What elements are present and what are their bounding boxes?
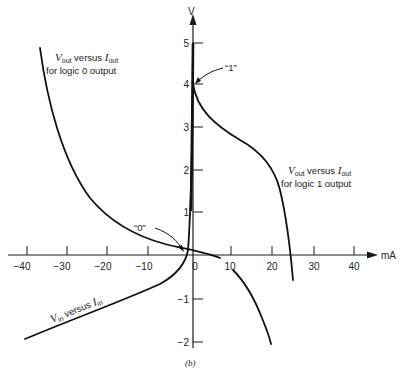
x-tick-label: −30 [54,261,71,272]
y-tick-label: 1 [183,207,189,218]
x-tick-label: 30 [308,261,320,272]
logic1-label-line2: for logic 1 output [281,178,352,189]
y-tick-label: 3 [183,122,189,133]
x-axis-arrow-icon [367,252,378,259]
x-tick-label: −40 [14,261,31,272]
x-tick-labels: −40 −30 −20 −10 0 10 20 30 40 [14,261,360,272]
curve-vout-logic1 [193,84,293,280]
logic0-label-line1: Vout versus Iout [55,51,118,64]
arrow-one-head-icon [195,77,201,84]
chart: −40 −30 −20 −10 0 10 20 30 40 mA 5 4 3 2… [0,0,401,378]
arrow-one [197,68,223,82]
x-tick-label: 20 [266,261,278,272]
x-tick-label: 40 [348,261,360,272]
curves [25,44,293,344]
x-tick-label: −10 [136,261,153,272]
figure-caption: (b) [185,358,196,368]
x-tick-label: 0 [192,261,198,272]
logic1-label-line1: Vout versus Iout [288,164,351,177]
marker-zero-label: “0” [134,222,146,233]
y-tick-label: 2 [183,165,189,176]
marker-one-label: “1” [225,62,237,73]
curve-vin-iin [25,44,193,339]
y-axis-unit: V [188,6,195,17]
y-tick-label: 4 [183,79,189,90]
vin-label: Vin versus Iin [48,293,104,326]
y-tick-labels: 5 4 3 2 1 −1 −2 [178,38,190,348]
curve-vin-iin-positive [233,270,271,344]
arrow-zero [155,228,182,249]
y-tick-label: −1 [178,294,190,305]
x-axis-unit: mA [381,250,396,261]
logic0-label-line2: for logic 0 output [46,65,117,76]
x-tick-label: −20 [95,261,112,272]
y-tick-label: −2 [178,337,190,348]
y-tick-label: 5 [183,38,189,49]
